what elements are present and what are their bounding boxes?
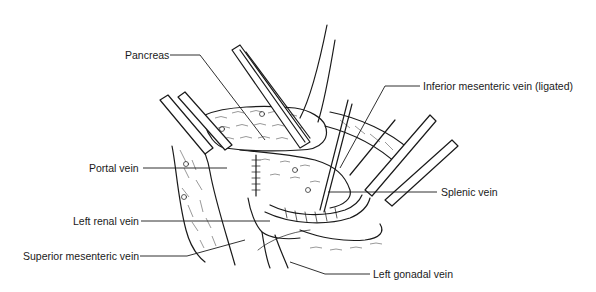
portal-suture-line [252,155,260,196]
splenic-vein-shape [265,195,370,223]
anatomy-diagram: Pancreas Inferior mesenteric vein (ligat… [0,0,596,292]
label-superior-mesenteric-vein: Superior mesenteric vein [23,250,139,262]
label-left-renal-vein: Left renal vein [73,215,139,227]
forceps-top [232,45,310,148]
label-portal-vein: Portal vein [89,162,139,174]
retractor-upper-left [160,92,232,154]
label-left-gonadal-vein: Left gonadal vein [373,268,453,280]
left-renal-vein-shape [248,198,382,268]
label-splenic-vein: Splenic vein [441,186,498,198]
left-tissue-mass [172,140,235,265]
vertical-instrument [300,25,335,122]
label-inferior-mesenteric-vein: Inferior mesenteric vein (ligated) [423,80,573,92]
label-pancreas: Pancreas [125,49,169,61]
surgical-illustration [0,0,596,292]
